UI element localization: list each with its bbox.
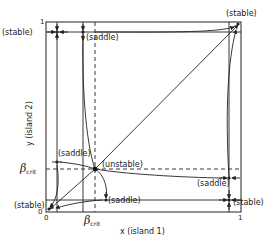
y-tick-1: 1 [40,18,44,26]
label-saddle-left: (saddle) [58,149,91,158]
label-stable-top-right: (stable) [226,9,257,18]
y-tick-0: 0 [38,208,42,216]
label-saddle-top: (saddle) [86,33,119,42]
x-tick-0: 0 [44,214,48,222]
label-saddle-right: (saddle) [197,179,230,188]
phase-portrait-diagram: (stable) (saddle) (stable) (saddle) (uns… [0,0,275,249]
beta-crit-x-label: βcrit [83,214,101,227]
label-stable-top-left: (stable) [2,28,33,37]
label-saddle-bottom: (saddle) [108,196,141,205]
label-unstable-center: (unstable) [102,160,143,169]
curve-lower-vertical [95,169,107,198]
x-axis-title: x (island 1) [120,227,165,236]
diagonal-to-top-right [95,25,238,169]
curve-right-horizontal [95,169,226,178]
flow-bottom-to-stable [56,200,103,208]
x-tick-1: 1 [238,214,242,222]
y-axis-title: y (island 2) [25,101,34,146]
beta-crit-y-label: βcrit [19,162,37,175]
curve-left-horizontal [60,162,95,169]
flow-top-to-stable [95,27,234,32]
label-stable-bottom-right: (stable) [233,198,264,207]
